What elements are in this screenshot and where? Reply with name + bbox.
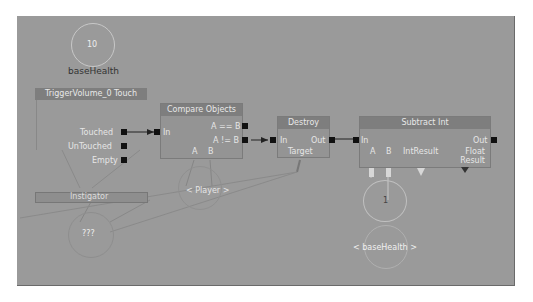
intresult-arrow-icon: [417, 168, 425, 176]
trigger-volume-title: TriggerVolume_0 Touch: [35, 88, 147, 100]
output-untouched-port[interactable]: [121, 143, 127, 149]
output-touched-port[interactable]: [121, 129, 127, 135]
int-one-value: 1: [383, 196, 388, 205]
destroy-in-port[interactable]: [270, 137, 276, 143]
compare-in-label: In: [163, 128, 170, 137]
compare-b-label: B: [208, 147, 214, 156]
unknown-variable-label: ???: [82, 229, 95, 238]
subtract-int-title: Subtract Int: [360, 117, 490, 129]
compare-objects-node[interactable]: Compare Objects: [160, 103, 243, 159]
output-empty-port[interactable]: [121, 157, 127, 163]
player-variable-label: < Player >: [186, 186, 229, 195]
compare-a-label: A: [192, 147, 197, 156]
subtract-a-label: A: [370, 147, 375, 156]
compare-equal-port[interactable]: [242, 123, 248, 129]
subtract-a-pin[interactable]: [369, 168, 374, 177]
subtract-in-label: In: [361, 136, 368, 145]
floatresult-arrow-icon: [461, 167, 469, 173]
subtract-b-label: B: [386, 147, 392, 156]
base-health-value: 10: [87, 40, 97, 49]
destroy-title: Destroy: [278, 117, 329, 129]
destroy-out-label: Out: [311, 136, 326, 145]
compare-notequal-label: A != B: [213, 136, 239, 145]
output-touched-label: Touched: [80, 128, 113, 137]
subtract-out-port[interactable]: [491, 137, 497, 143]
destroy-out-port[interactable]: [329, 137, 335, 143]
output-untouched-label: UnTouched: [68, 142, 112, 151]
base-health-label: baseHealth: [68, 67, 119, 76]
compare-objects-title: Compare Objects: [161, 104, 242, 116]
compare-notequal-port[interactable]: [242, 137, 248, 143]
subtract-b-pin[interactable]: [386, 168, 391, 177]
subtract-in-port[interactable]: [353, 137, 359, 143]
subtract-intresult-label: IntResult: [403, 147, 438, 156]
compare-in-port[interactable]: [154, 129, 160, 135]
compare-equal-label: A == B: [211, 122, 240, 131]
subtract-out-label: Out: [473, 136, 488, 145]
subtract-floatresult-label: Float Result: [453, 147, 485, 165]
trigger-volume-touch-node[interactable]: TriggerVolume_0 Touch: [36, 88, 149, 150]
output-empty-label: Empty: [92, 156, 118, 165]
instigator-label: Instigator: [70, 192, 108, 201]
base-health-ref-label: < baseHealth >: [353, 243, 417, 252]
destroy-target-label: Target: [288, 147, 313, 156]
destroy-in-label: In: [280, 136, 287, 145]
